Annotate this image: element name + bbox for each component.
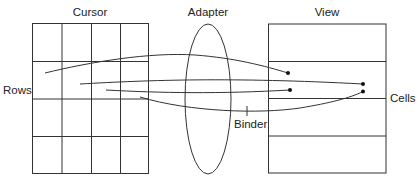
- connection-curve: [80, 80, 363, 84]
- cells-label: Cells: [390, 92, 416, 104]
- adapter-diagram: Cursor Adapter View Rows Cells Binder: [0, 0, 418, 182]
- adapter-title: Adapter: [188, 6, 228, 18]
- connection-endpoint: [286, 71, 290, 75]
- connections: [45, 54, 365, 111]
- binder-label: Binder: [234, 118, 267, 130]
- rows-label: Rows: [3, 84, 32, 96]
- connection-curve: [45, 54, 288, 73]
- cursor-title: Cursor: [73, 6, 108, 18]
- connection-endpoint: [288, 88, 292, 92]
- connection-curve: [106, 90, 290, 93]
- cursor-grid: [33, 24, 149, 174]
- connection-curve: [140, 92, 363, 112]
- connection-endpoint: [361, 82, 365, 86]
- adapter-ellipse: [185, 24, 231, 174]
- view-list: [269, 24, 387, 173]
- view-title: View: [315, 6, 340, 18]
- connection-endpoint: [361, 90, 365, 94]
